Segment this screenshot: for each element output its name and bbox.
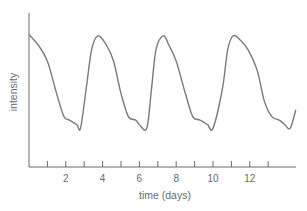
y-axis-label: intensity	[7, 72, 19, 111]
x-tick-label: 2	[63, 173, 69, 184]
x-axis-label: time (days)	[139, 189, 191, 201]
x-tick-label: 6	[137, 173, 143, 184]
intensity-curve	[29, 35, 296, 131]
x-tick-label: 12	[244, 173, 256, 184]
intensity-chart: 24681012 intensity time (days)	[0, 0, 307, 211]
x-tick-label: 8	[173, 173, 179, 184]
x-tick-label: 4	[100, 173, 106, 184]
x-axis-ticks	[47, 161, 268, 167]
x-axis-tick-labels: 24681012	[63, 173, 256, 184]
x-tick-label: 10	[207, 173, 219, 184]
